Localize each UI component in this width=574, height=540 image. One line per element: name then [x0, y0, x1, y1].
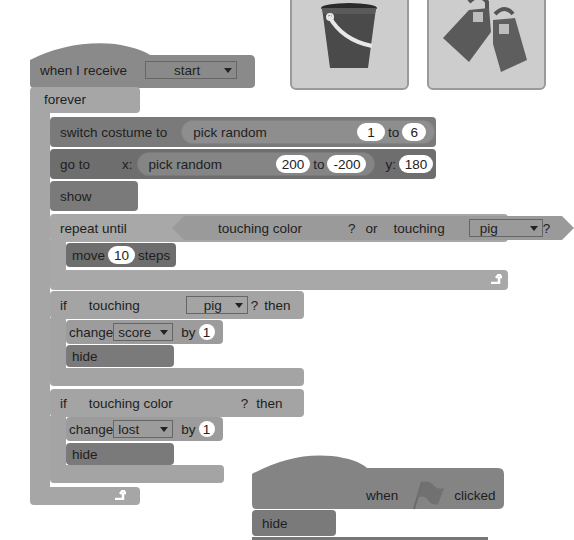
variable-value: score	[118, 325, 151, 340]
forever-arm	[30, 110, 50, 492]
when-flag-clicked-block[interactable]: when clicked	[366, 480, 496, 510]
when-label: when	[366, 488, 398, 503]
dropdown-arrow-icon	[224, 68, 232, 73]
show-label: show	[60, 189, 92, 204]
change-variable-block[interactable]: change score by 1	[66, 320, 223, 344]
move-label: move	[72, 248, 105, 263]
switch-costume-label: switch costume to	[60, 125, 167, 140]
change-amount-input[interactable]: 1	[199, 324, 215, 340]
y-input[interactable]: 180	[399, 155, 433, 173]
show-block[interactable]: show	[50, 181, 138, 211]
steps-label: steps	[138, 248, 170, 263]
touching-label: touching	[394, 221, 445, 236]
touching-sprite-dropdown[interactable]: pig	[469, 219, 543, 237]
if-bottom	[50, 368, 304, 386]
change-label: change	[69, 422, 113, 437]
when-i-receive-block[interactable]: when I receive start	[30, 55, 255, 85]
change-variable-block[interactable]: change lost by 1	[66, 417, 223, 441]
or-label: or	[366, 221, 378, 236]
message-value: start	[156, 63, 218, 78]
if-label: if	[60, 298, 67, 313]
sprite-value: pig	[480, 221, 524, 236]
clicked-label: clicked	[454, 488, 495, 503]
variable-value: lost	[118, 422, 154, 437]
change-label: change	[69, 325, 113, 340]
pick-random-reporter[interactable]: pick random 200 to -200	[137, 152, 376, 176]
costume-bucket[interactable]	[290, 0, 409, 90]
green-flag-icon	[408, 480, 444, 510]
by-label: by	[181, 325, 195, 340]
touching-sprite-dropdown[interactable]: pig	[186, 296, 248, 314]
y-label: y:	[385, 157, 396, 172]
steps-input[interactable]: 10	[108, 246, 135, 264]
or-operator[interactable]: touching color ? or touching pig ?	[172, 216, 574, 240]
switch-costume-block[interactable]: switch costume to pick random 1 to 6	[50, 117, 436, 147]
when-i-receive-label: when I receive	[40, 63, 127, 78]
if-arm	[50, 318, 66, 370]
if-then-block[interactable]: if touching color ? then	[50, 389, 304, 417]
hide-label: hide	[72, 447, 98, 462]
question-mark: ?	[241, 396, 249, 411]
bucket-icon	[292, 0, 407, 88]
by-label: by	[181, 422, 195, 437]
costume-flippers[interactable]	[427, 0, 546, 90]
dropdown-arrow-icon	[530, 226, 538, 231]
go-to-xy-block[interactable]: go to x: pick random 200 to -200 y: 180	[50, 149, 436, 179]
pick-random-reporter[interactable]: pick random 1 to 6	[181, 120, 435, 144]
question-mark: ?	[348, 221, 356, 236]
if-bottom	[50, 465, 224, 483]
move-steps-block[interactable]: move 10 steps	[66, 243, 176, 267]
random-from-input[interactable]: 200	[276, 155, 311, 173]
question-mark: ?	[251, 298, 259, 313]
question-mark: ?	[543, 221, 551, 236]
to-label: to	[388, 125, 399, 140]
sprite-value: pig	[197, 298, 229, 313]
variable-dropdown[interactable]: lost	[113, 420, 173, 438]
forever-label: forever	[44, 92, 86, 107]
hide-label: hide	[262, 516, 288, 531]
loop-arrow-icon	[114, 490, 126, 500]
then-label: then	[264, 298, 290, 313]
touching-color-label: touching color	[218, 221, 302, 236]
hide-block[interactable]: hide	[66, 345, 174, 367]
message-dropdown[interactable]: start	[145, 61, 237, 79]
touching-label: touching	[89, 298, 140, 313]
forever-bottom	[30, 487, 140, 505]
random-from-input[interactable]: 1	[357, 123, 385, 141]
if-arm	[50, 416, 66, 468]
repeat-bottom	[50, 270, 508, 290]
random-to-input[interactable]: 6	[402, 123, 426, 141]
pick-random-label: pick random	[149, 157, 273, 172]
touching-color-label: touching color	[89, 396, 173, 411]
variable-dropdown[interactable]: score	[113, 323, 173, 341]
hide-block[interactable]: hide	[252, 510, 336, 536]
pick-random-label: pick random	[193, 125, 354, 140]
change-amount-input[interactable]: 1	[199, 421, 215, 437]
hide-label: hide	[72, 349, 98, 364]
hide-block[interactable]: hide	[66, 443, 174, 465]
then-label: then	[256, 396, 282, 411]
if-label: if	[60, 396, 67, 411]
dropdown-arrow-icon	[160, 330, 168, 335]
dropdown-arrow-icon	[160, 427, 168, 432]
go-to-label: go to	[60, 157, 90, 172]
dropdown-arrow-icon	[235, 303, 243, 308]
random-to-input[interactable]: -200	[327, 155, 366, 173]
to-label: to	[313, 157, 324, 172]
loop-arrow-icon	[490, 274, 502, 284]
if-then-block[interactable]: if touching pig ? then	[50, 291, 304, 319]
flippers-icon	[429, 0, 544, 88]
x-label: x:	[122, 157, 133, 172]
repeat-until-label: repeat until	[60, 221, 127, 236]
